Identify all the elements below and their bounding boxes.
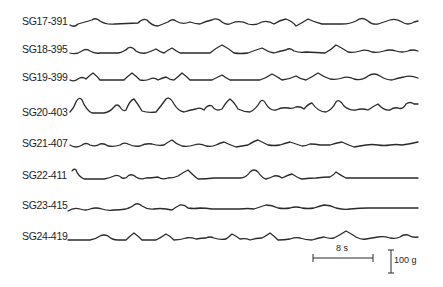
trace-sg20 <box>70 98 418 113</box>
force-scale-label: 100 g <box>394 255 417 265</box>
time-scale-label: 8 s <box>336 243 348 253</box>
trace-sg19 <box>70 73 418 81</box>
trace-sg24 <box>68 231 418 240</box>
trace-sg23 <box>68 204 418 211</box>
trace-sg22 <box>72 169 418 179</box>
traces-plot <box>0 0 443 287</box>
time-scale-bar <box>313 254 373 262</box>
trace-sg21 <box>70 140 418 147</box>
trace-sg18 <box>70 45 418 54</box>
trace-sg17 <box>70 19 418 27</box>
